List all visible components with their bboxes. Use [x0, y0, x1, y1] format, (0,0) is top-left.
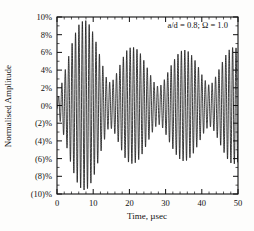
y-tick-label: (4)%: [35, 136, 52, 146]
x-tick-label: 0: [55, 198, 59, 208]
y-axis-tick-labels: 10%8%6%4%2%0%(2)%(4)%(6)%(8)%(10)%: [31, 12, 52, 199]
x-tick-label: 20: [125, 198, 134, 208]
chart-figure: 01020304050 10%8%6%4%2%0%(2)%(4)%(6)%(8)…: [0, 0, 254, 231]
y-tick-label: (6)%: [35, 154, 52, 164]
x-tick-label: 10: [89, 198, 98, 208]
y-tick-label: 6%: [41, 47, 52, 57]
y-tick-label: 10%: [36, 12, 52, 22]
y-tick-label: 0%: [41, 101, 52, 111]
y-tick-label: 8%: [41, 30, 52, 40]
y-tick-label: 2%: [41, 83, 52, 93]
x-tick-label: 40: [198, 198, 207, 208]
y-tick-label: (2)%: [35, 118, 52, 128]
x-axis-tick-labels: 01020304050: [55, 198, 242, 208]
y-tick-label: (10)%: [31, 189, 52, 199]
x-tick-label: 30: [161, 198, 170, 208]
y-axis-title: Normalised Amplitude: [3, 65, 13, 147]
x-tick-label: 50: [234, 198, 243, 208]
parameter-annotation: a/d = 0.8; Ω = 1.0: [167, 20, 228, 30]
y-tick-label: 4%: [41, 65, 52, 75]
y-tick-label: (8)%: [35, 171, 52, 181]
x-axis-title: Time, µsec: [127, 211, 167, 221]
chart-plot: 01020304050 10%8%6%4%2%0%(2)%(4)%(6)%(8)…: [0, 0, 254, 231]
